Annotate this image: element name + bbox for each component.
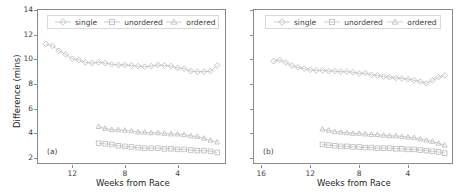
panel-a: 12842468101214 Difference (mins) Weeks f…: [0, 0, 236, 196]
legend-entry-single[interactable]: single: [266, 17, 323, 27]
legend-entry-ordered[interactable]: ordered: [163, 17, 218, 27]
y-tick-mark: [34, 10, 37, 11]
x-tick-mark: [359, 165, 360, 168]
diamond-marker-icon: [54, 17, 72, 27]
legend-label: single: [75, 18, 97, 27]
legend-label: ordered: [186, 18, 215, 27]
series-unordered: [96, 141, 219, 155]
x-tick-mark: [310, 165, 311, 168]
y-tick-mark: [34, 84, 37, 85]
legend-entry-unordered[interactable]: unordered: [103, 17, 163, 27]
legend-label: unordered: [124, 18, 163, 27]
panel-a-plot-area: [37, 9, 226, 164]
panel-b-x-axis-title: Weeks from Race: [317, 178, 391, 188]
triangle-marker-icon: [165, 17, 183, 27]
legend-entry-unordered[interactable]: unordered: [323, 17, 383, 27]
y-tick-mark: [34, 109, 37, 110]
y-tick-mark: [34, 35, 37, 36]
x-tick-label: 12: [62, 169, 82, 178]
x-tick-mark: [178, 165, 179, 168]
x-tick-label: 4: [168, 169, 188, 178]
y-tick-label: 12: [15, 30, 33, 39]
legend-label: single: [294, 18, 316, 27]
figure-canvas: 12842468101214 Difference (mins) Weeks f…: [0, 0, 471, 196]
panel-a-x-axis-title: Weeks from Race: [96, 178, 170, 188]
panel-a-series-layer: [38, 10, 225, 163]
x-tick-label: 8: [349, 169, 369, 178]
panel-b-tag: (b): [263, 147, 274, 156]
y-tick-mark: [250, 109, 253, 110]
panel-b-legend[interactable]: singleunorderedordered: [265, 15, 441, 29]
series-single: [271, 57, 448, 86]
series-ordered: [96, 124, 220, 144]
panel-a-legend[interactable]: singleunorderedordered: [47, 15, 219, 29]
y-tick-mark: [250, 35, 253, 36]
series-unordered: [320, 142, 447, 155]
diamond-marker-icon: [273, 17, 291, 27]
square-marker-icon: [103, 17, 121, 27]
panel-b-plot-area: [253, 9, 453, 164]
y-tick-label: 2: [15, 153, 33, 162]
legend-label: unordered: [344, 18, 383, 27]
x-tick-mark: [408, 165, 409, 168]
x-tick-label: 12: [300, 169, 320, 178]
x-tick-label: 16: [251, 169, 271, 178]
y-tick-label: 14: [15, 5, 33, 14]
legend-entry-single[interactable]: single: [48, 17, 103, 27]
y-tick-mark: [250, 133, 253, 134]
y-tick-mark: [34, 59, 37, 60]
legend-entry-ordered[interactable]: ordered: [383, 17, 440, 27]
triangle-marker-icon: [386, 17, 404, 27]
x-tick-mark: [261, 165, 262, 168]
panel-b-series-layer: [254, 10, 452, 163]
y-tick-mark: [250, 59, 253, 60]
y-tick-mark: [250, 158, 253, 159]
y-tick-label: 4: [15, 128, 33, 137]
x-tick-label: 4: [398, 169, 418, 178]
y-tick-mark: [34, 158, 37, 159]
panel-a-tag: (a): [47, 147, 57, 156]
y-tick-mark: [34, 133, 37, 134]
y-tick-mark: [250, 10, 253, 11]
legend-label: ordered: [407, 18, 436, 27]
x-tick-mark: [125, 165, 126, 168]
x-tick-mark: [72, 165, 73, 168]
x-tick-label: 8: [115, 169, 135, 178]
panel-a-y-axis-title: Difference (mins): [12, 54, 22, 128]
panel-b: 161284 Weeks from Race (b) singleunorder…: [235, 0, 471, 196]
y-tick-mark: [250, 84, 253, 85]
square-marker-icon: [323, 17, 341, 27]
series-single: [43, 41, 220, 75]
